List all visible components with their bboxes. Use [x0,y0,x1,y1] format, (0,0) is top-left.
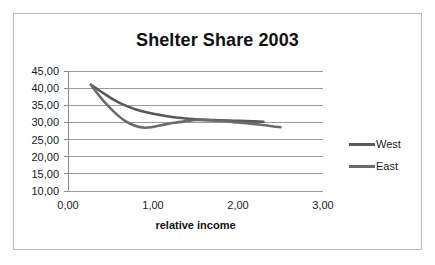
chart-canvas [14,14,423,251]
legend-line-swatch [349,165,375,168]
x-axis-tick-label: 0,00 [57,199,78,211]
y-axis-tick-label: 30,00 [31,116,59,128]
y-axis-tick-label: 20,00 [31,151,59,163]
y-axis-tick-label: 35,00 [31,99,59,111]
y-axis-tick-label: 10,00 [31,185,59,197]
x-axis-title: relative income [155,219,235,231]
x-axis-tick-label: 1,00 [142,199,163,211]
y-axis-tick-label: 40,00 [31,82,59,94]
legend-item-west[interactable]: West [349,139,401,150]
y-axis-tick-label: 45,00 [31,65,59,77]
legend-label: East [376,161,398,172]
x-axis-tick-label: 3,00 [312,199,333,211]
plot-area [14,14,421,249]
y-axis-tick-label: 25,00 [31,134,59,146]
legend-line-swatch [349,143,375,146]
legend-item-east[interactable]: East [349,161,398,172]
legend-label: West [376,139,401,150]
x-axis-tick-label: 2,00 [227,199,248,211]
chart-frame: Shelter Share 2003 10,0015,0020,0025,003… [13,13,422,250]
y-axis-tick-label: 15,00 [31,168,59,180]
